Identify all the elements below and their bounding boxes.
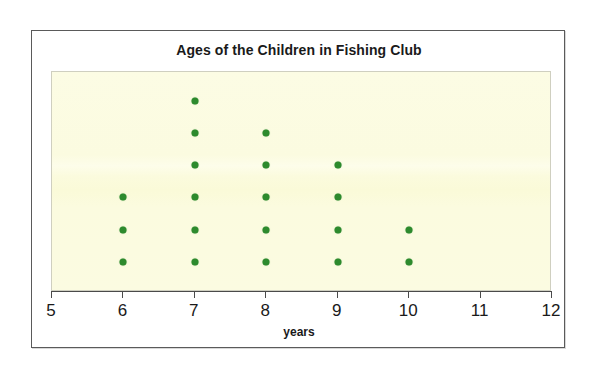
data-dot — [263, 226, 270, 233]
data-dot — [191, 129, 198, 136]
data-dot — [191, 162, 198, 169]
x-axis-tick-label: 10 — [388, 301, 428, 321]
chart-title: Ages of the Children in Fishing Club — [32, 42, 566, 58]
x-axis-tick — [265, 291, 266, 298]
x-axis-label: years — [32, 325, 566, 339]
data-dot — [191, 97, 198, 104]
x-axis-line — [51, 291, 551, 292]
data-dot — [263, 129, 270, 136]
data-dot — [120, 226, 127, 233]
x-axis-tick-label: 12 — [531, 301, 571, 321]
data-dot — [334, 162, 341, 169]
data-dot — [334, 226, 341, 233]
data-dot — [406, 226, 413, 233]
x-axis-tick-label: 8 — [245, 301, 285, 321]
data-dot — [191, 259, 198, 266]
x-axis-tick — [122, 291, 123, 298]
plot-area — [51, 71, 551, 291]
data-dot — [334, 194, 341, 201]
data-dot — [263, 162, 270, 169]
x-axis-tick-label: 6 — [102, 301, 142, 321]
x-axis-tick-label: 7 — [174, 301, 214, 321]
data-dot — [263, 259, 270, 266]
x-axis-tick-label: 11 — [460, 301, 500, 321]
data-dot — [120, 194, 127, 201]
data-dot — [334, 259, 341, 266]
x-axis-tick — [51, 291, 52, 298]
data-dot — [191, 194, 198, 201]
x-axis-tick — [551, 291, 552, 298]
x-axis-tick — [480, 291, 481, 298]
chart-figure-frame: Ages of the Children in Fishing Club 567… — [31, 30, 565, 348]
x-axis-tick — [194, 291, 195, 298]
data-dot — [191, 226, 198, 233]
x-axis-tick — [337, 291, 338, 298]
data-dot — [406, 259, 413, 266]
data-dot — [263, 194, 270, 201]
x-axis-tick-label: 5 — [31, 301, 71, 321]
x-axis-tick-label: 9 — [317, 301, 357, 321]
x-axis-tick — [408, 291, 409, 298]
data-dot — [120, 259, 127, 266]
